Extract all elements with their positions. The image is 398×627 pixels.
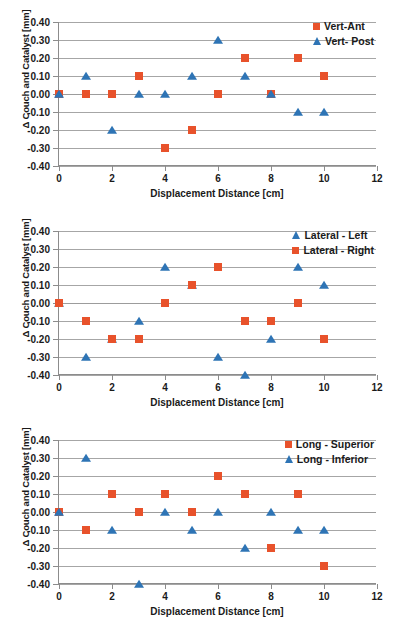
legend-label: Vert-Ant bbox=[324, 20, 365, 32]
data-point-square bbox=[214, 472, 222, 480]
data-point-square bbox=[161, 490, 169, 498]
data-point-triangle bbox=[134, 317, 144, 325]
y-axis-tick-label: 0.40 bbox=[31, 226, 50, 237]
legend-1: Vert-AntVert- Post bbox=[313, 20, 374, 47]
y-axis-tick bbox=[53, 22, 59, 23]
y-axis-tick-label: -0.20 bbox=[27, 543, 50, 554]
data-point-square bbox=[135, 72, 143, 80]
y-axis-tick bbox=[53, 357, 59, 358]
y-axis-tick-label: 0.30 bbox=[31, 244, 50, 255]
y-axis-tick-label: -0.40 bbox=[27, 579, 50, 590]
x-axis-tick bbox=[324, 584, 325, 589]
y-axis-tick-label: 0.10 bbox=[31, 71, 50, 82]
data-point-square bbox=[108, 335, 116, 343]
gridline-horizontal bbox=[59, 58, 376, 59]
y-axis-tick bbox=[53, 566, 59, 567]
y-axis-tick-label: -0.20 bbox=[27, 125, 50, 136]
x-axis-tick-label: 8 bbox=[268, 382, 274, 393]
data-point-square bbox=[188, 126, 196, 134]
data-point-triangle bbox=[160, 508, 170, 516]
legend-item[interactable]: Long - Superior bbox=[285, 438, 374, 450]
data-point-square bbox=[188, 508, 196, 516]
data-point-triangle bbox=[213, 508, 223, 516]
y-axis-tick-label: 0.30 bbox=[31, 35, 50, 46]
data-point-triangle bbox=[187, 72, 197, 80]
legend-item[interactable]: Vert-Ant bbox=[313, 20, 374, 32]
y-axis-tick-label: -0.10 bbox=[27, 316, 50, 327]
gridline-horizontal bbox=[59, 548, 376, 549]
legend-2: Lateral - LeftLateral - Right bbox=[292, 229, 374, 256]
plot-area-3: 0.400.300.200.100.00-0.10-0.20-0.30-0.40… bbox=[58, 440, 376, 584]
legend-item[interactable]: Lateral - Left bbox=[292, 229, 374, 241]
y-axis-tick-label: 0.00 bbox=[31, 507, 50, 518]
y-axis-tick bbox=[53, 267, 59, 268]
y-axis-tick bbox=[53, 130, 59, 131]
data-point-square bbox=[188, 281, 196, 289]
x-axis-tick-label: 0 bbox=[56, 173, 62, 184]
x-axis-tick bbox=[165, 584, 166, 589]
plot-area-1: 0.400.300.200.100.00-0.10-0.20-0.30-0.40… bbox=[58, 22, 376, 166]
x-axis-tick bbox=[377, 584, 378, 589]
x-axis-tick-label: 10 bbox=[318, 591, 329, 602]
x-axis-tick-label: 6 bbox=[215, 173, 221, 184]
gridline-horizontal bbox=[59, 76, 376, 77]
legend-item[interactable]: Long - Inferior bbox=[285, 453, 374, 465]
x-axis-tick-label: 2 bbox=[109, 382, 115, 393]
gridline-horizontal bbox=[59, 494, 376, 495]
x-axis-tick bbox=[377, 166, 378, 171]
data-point-triangle bbox=[319, 281, 329, 289]
y-axis-tick-label: 0.10 bbox=[31, 489, 50, 500]
data-point-square bbox=[267, 544, 275, 552]
y-axis-tick-label: -0.40 bbox=[27, 370, 50, 381]
data-point-triangle bbox=[54, 90, 64, 98]
y-axis-tick bbox=[53, 58, 59, 59]
data-point-triangle bbox=[81, 353, 91, 361]
data-point-triangle bbox=[160, 90, 170, 98]
x-axis-tick bbox=[112, 166, 113, 171]
x-axis-tick-label: 10 bbox=[318, 173, 329, 184]
y-axis-tick-label: -0.10 bbox=[27, 525, 50, 536]
legend-label: Lateral - Right bbox=[303, 244, 374, 256]
x-axis-tick bbox=[271, 584, 272, 589]
y-axis-tick bbox=[53, 530, 59, 531]
x-axis-tick-label: 2 bbox=[109, 173, 115, 184]
data-point-square bbox=[108, 90, 116, 98]
data-point-triangle bbox=[107, 126, 117, 134]
y-axis-tick bbox=[53, 40, 59, 41]
x-axis-tick bbox=[218, 584, 219, 589]
gridline-horizontal bbox=[59, 148, 376, 149]
data-point-triangle bbox=[54, 508, 64, 516]
data-point-square bbox=[108, 490, 116, 498]
data-point-square bbox=[161, 144, 169, 152]
data-point-triangle bbox=[107, 526, 117, 534]
data-point-triangle bbox=[293, 526, 303, 534]
data-point-triangle bbox=[240, 72, 250, 80]
legend-item[interactable]: Vert- Post bbox=[313, 35, 374, 47]
y-axis-tick bbox=[53, 231, 59, 232]
data-point-square bbox=[294, 299, 302, 307]
x-axis-tick bbox=[271, 166, 272, 171]
triangle-marker-icon bbox=[313, 37, 321, 45]
y-axis-tick bbox=[53, 476, 59, 477]
data-point-square bbox=[267, 317, 275, 325]
x-axis-tick-label: 8 bbox=[268, 591, 274, 602]
y-axis-tick bbox=[53, 548, 59, 549]
x-axis-tick-label: 12 bbox=[371, 382, 382, 393]
data-point-square bbox=[82, 526, 90, 534]
scatter-plot-figure: Δ Couch and Catalyst [mm] 0.400.300.200.… bbox=[0, 0, 398, 627]
plot-area-2: 0.400.300.200.100.00-0.10-0.20-0.30-0.40… bbox=[58, 231, 376, 375]
y-axis-tick bbox=[53, 494, 59, 495]
data-point-square bbox=[294, 54, 302, 62]
x-axis-tick bbox=[112, 584, 113, 589]
x-axis-tick-label: 0 bbox=[56, 382, 62, 393]
y-axis-tick-label: -0.30 bbox=[27, 561, 50, 572]
x-axis-tick bbox=[271, 375, 272, 380]
x-axis-tick bbox=[324, 375, 325, 380]
legend-label: Lateral - Left bbox=[304, 229, 367, 241]
data-point-square bbox=[55, 299, 63, 307]
data-point-triangle bbox=[266, 90, 276, 98]
legend-item[interactable]: Lateral - Right bbox=[292, 244, 374, 256]
data-point-triangle bbox=[187, 526, 197, 534]
y-axis-tick-label: -0.20 bbox=[27, 334, 50, 345]
x-axis-tick-label: 4 bbox=[162, 173, 168, 184]
